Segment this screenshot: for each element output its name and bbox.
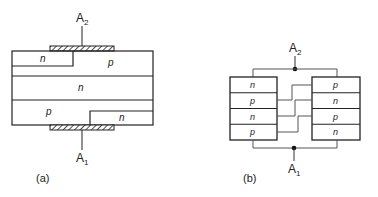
right-layer-3: p	[332, 112, 338, 122]
figure-a: A2 n p n p n A1 (a)	[12, 11, 153, 184]
caption-b: (b)	[243, 172, 256, 184]
caption-a: (a)	[36, 172, 49, 184]
left-layer-4: p	[249, 127, 255, 137]
left-layer-2: p	[249, 96, 255, 106]
interconnect-wire-3	[277, 116, 312, 132]
terminal-a1-label: A1	[76, 151, 89, 167]
region-top-left: n	[40, 53, 46, 64]
region-middle: n	[78, 82, 84, 93]
terminal-a1-label-b: A1	[288, 162, 301, 178]
interconnect-wire-1	[277, 85, 312, 100]
left-layer-1: n	[250, 80, 255, 90]
bottom-contact-metal	[50, 125, 114, 130]
terminal-a2-label-b: A2	[289, 41, 302, 57]
terminal-a2-label: A2	[76, 11, 89, 27]
interconnect-wire-2	[277, 100, 312, 116]
right-layer-1: p	[332, 80, 338, 90]
left-layer-3: n	[250, 112, 255, 122]
right-layer-2: n	[333, 96, 338, 106]
top-contact-metal	[50, 46, 114, 51]
region-bottom-right: n	[119, 112, 125, 123]
region-top-right: p	[107, 57, 114, 68]
region-bottom-left: p	[45, 106, 52, 117]
right-layer-4: n	[333, 127, 338, 137]
figure-b: A2 n p n p p n p n A1 (b)	[230, 41, 360, 184]
triac-structure-diagram: A2 n p n p n A1 (a) A2 n	[0, 0, 378, 197]
